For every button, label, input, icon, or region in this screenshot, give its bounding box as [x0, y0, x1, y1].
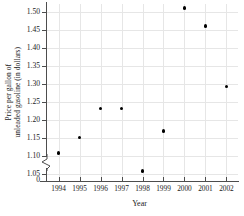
- y-axis-title-line1: Price per gallon of: [4, 47, 13, 138]
- x-axis-tick: [143, 177, 144, 182]
- data-point: [57, 151, 61, 155]
- x-axis-tick: [59, 177, 60, 182]
- gridline-vertical: [163, 4, 164, 179]
- x-axis-tick: [101, 177, 102, 182]
- gridline-vertical: [101, 4, 102, 179]
- y-axis-line: [46, 2, 47, 157]
- y-axis-tick-label: 1.25: [16, 98, 40, 106]
- plot-area: [47, 4, 238, 179]
- scatter-chart-figure: Price per gallon of unleaded gasoline (i…: [0, 0, 244, 216]
- gridline-vertical: [143, 4, 144, 179]
- x-axis-tick: [226, 177, 227, 182]
- y-axis-tick-label: 1.45: [16, 26, 40, 34]
- x-axis-tick: [80, 177, 81, 182]
- gridline-vertical: [80, 4, 81, 179]
- y-axis-tick-label: 1.30: [16, 80, 40, 88]
- y-axis-tick-label: 1.10: [16, 152, 40, 160]
- axis-break-icon: [40, 154, 56, 171]
- x-axis-tick: [122, 177, 123, 182]
- gridline-vertical: [184, 4, 185, 179]
- y-axis-tick-label: 1.15: [16, 134, 40, 142]
- y-axis-tick-label: 1.50: [16, 8, 40, 16]
- y-axis-origin-label: 0: [16, 176, 40, 184]
- x-axis-tick: [163, 177, 164, 182]
- gridline-vertical: [205, 4, 206, 179]
- y-axis-tick-label: 1.40: [16, 44, 40, 52]
- y-axis-tick-label: 1.20: [16, 116, 40, 124]
- x-axis-tick: [184, 177, 185, 182]
- gridline-vertical: [226, 4, 227, 179]
- x-axis-line: [40, 181, 239, 182]
- x-axis-title: Year: [40, 199, 239, 208]
- x-axis-tick-label: 2002: [211, 185, 241, 193]
- data-point: [162, 129, 166, 133]
- gridline-vertical: [122, 4, 123, 179]
- y-axis-tick-label: 1.35: [16, 62, 40, 70]
- x-axis-tick: [205, 177, 206, 182]
